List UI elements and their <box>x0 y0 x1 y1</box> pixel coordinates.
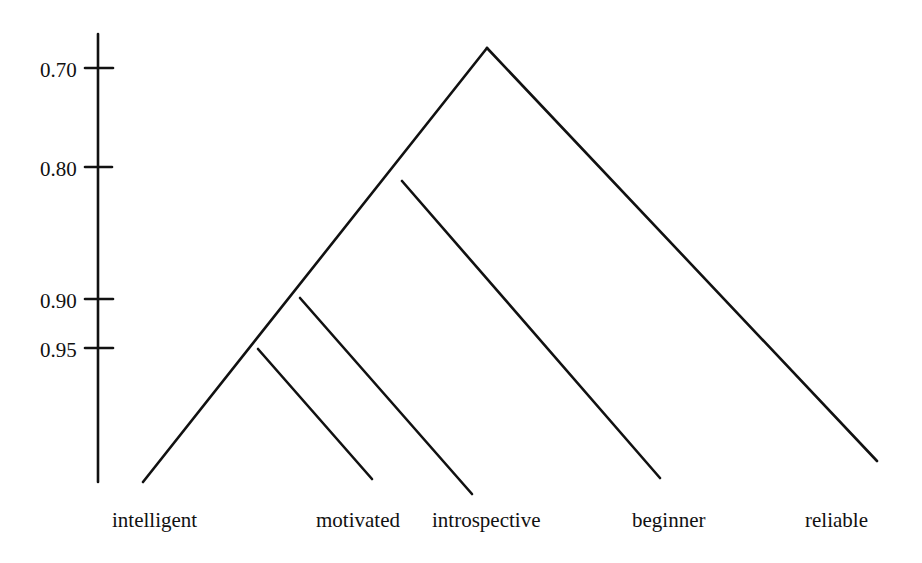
tick-label-090: 0.90 <box>40 291 77 312</box>
tick-label-070: 0.70 <box>40 60 77 81</box>
branch-node080-beginner <box>402 181 660 478</box>
leaf-label-beginner: beginner <box>632 510 705 531</box>
tick-label-095: 0.95 <box>40 340 77 361</box>
tick-label-080: 0.80 <box>40 159 77 180</box>
branch-root-reliable <box>487 48 877 461</box>
leaf-label-intelligent: intelligent <box>112 510 197 531</box>
leaf-label-motivated: motivated <box>316 510 400 531</box>
branch-node095-motivated <box>258 349 372 479</box>
leaf-label-introspective: introspective <box>432 510 540 531</box>
dendrogram <box>0 0 922 563</box>
branch-node090-introspective <box>300 298 472 494</box>
branch-root-left <box>143 48 487 482</box>
leaf-label-reliable: reliable <box>805 510 868 531</box>
